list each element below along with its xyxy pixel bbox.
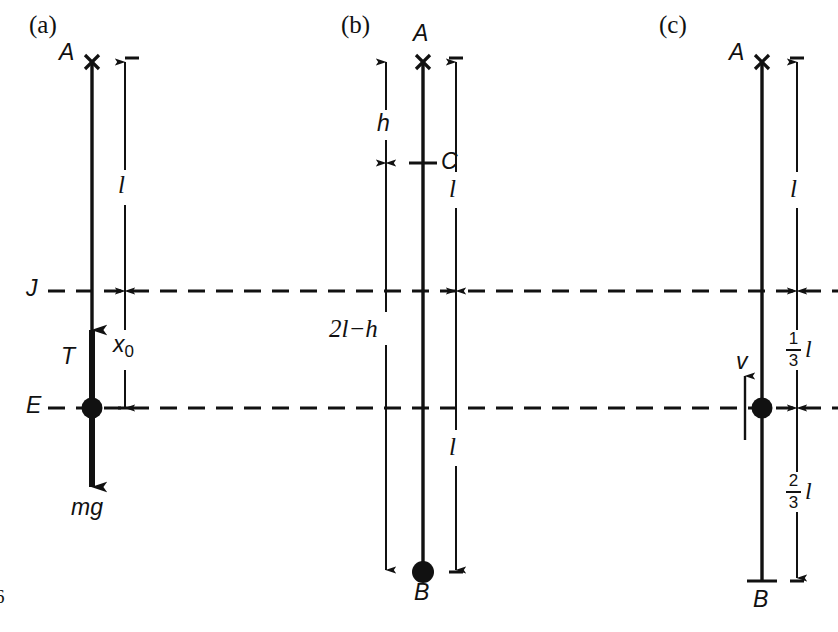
panel-a	[82, 55, 140, 487]
x0-base: x	[113, 331, 125, 357]
x0-subscript: 0	[125, 342, 134, 361]
fraction-denominator: 3	[788, 494, 799, 512]
fraction-two-thirds: 2 3	[786, 472, 801, 511]
dimension-label-2l-minus-h-b: 2l−h	[329, 316, 378, 341]
point-label-B-b: B	[414, 581, 429, 604]
point-label-E-a: E	[26, 394, 41, 417]
figure-canvas	[0, 0, 838, 632]
dimension-label-one-third-l-c: 1 3 l	[786, 330, 812, 369]
dimension-label-l-a: l	[118, 172, 125, 197]
dimension-label-x0-a: x0	[113, 333, 134, 360]
fraction-numerator: 2	[788, 472, 799, 490]
dimension-label-l-c: l	[790, 176, 797, 201]
page-number: 6	[0, 586, 5, 608]
dimension-label-two-thirds-l-c: 2 3 l	[786, 472, 812, 511]
dimension-label-l-upper-b: l	[449, 176, 456, 201]
bead-E-c	[752, 398, 773, 419]
fraction-one-third: 1 3	[786, 330, 801, 369]
fraction-unit-l: l	[805, 478, 812, 505]
panel-tag-b: (b)	[341, 12, 370, 37]
dimension-label-h-b: h	[377, 112, 390, 135]
physics-figure: (a) A J E T mg l x0 (b) A C B h 2l−h l l…	[0, 0, 838, 632]
velocity-label-v: v	[736, 350, 748, 373]
panel-b	[386, 55, 463, 583]
point-label-C-b: C	[441, 150, 458, 173]
dimension-l-lower-b	[449, 291, 463, 572]
panel-tag-c: (c)	[659, 12, 687, 37]
force-label-mg: mg	[71, 496, 103, 519]
point-label-B-c: B	[753, 588, 768, 611]
point-label-A-a: A	[59, 41, 74, 64]
point-label-J-a: J	[26, 277, 38, 300]
bead-E-a	[82, 398, 103, 419]
fraction-numerator: 1	[788, 330, 799, 348]
dimension-l-a	[125, 58, 139, 291]
point-label-A-b: A	[413, 22, 428, 45]
fraction-unit-l: l	[805, 336, 812, 363]
dimension-label-l-lower-b: l	[449, 434, 456, 459]
force-label-T: T	[61, 345, 75, 368]
panel-tag-a: (a)	[29, 12, 57, 37]
fraction-denominator: 3	[788, 352, 799, 370]
point-label-A-c: A	[729, 41, 744, 64]
